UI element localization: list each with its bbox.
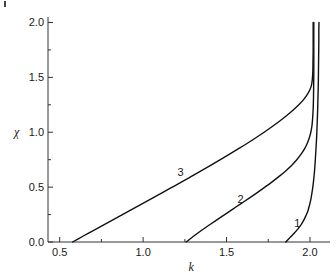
y-tick-label: 1.5 bbox=[16, 72, 44, 83]
curve-2 bbox=[186, 22, 314, 242]
curve-label-1: 1 bbox=[294, 218, 300, 229]
x-axis-title: k bbox=[189, 261, 194, 273]
y-tick-label: 0.5 bbox=[16, 182, 44, 193]
axis-lines bbox=[48, 17, 330, 242]
y-tick-label: 0.0 bbox=[16, 237, 44, 248]
data-curves bbox=[73, 22, 319, 242]
chart-figure: 0.00.51.01.52.0 0.51.01.52.0 123 χ k bbox=[0, 0, 336, 279]
x-tick-label: 2.0 bbox=[296, 247, 324, 258]
curve-label-3: 3 bbox=[177, 167, 183, 178]
x-tick-label: 1.0 bbox=[129, 247, 157, 258]
y-tick-label: 2.0 bbox=[16, 17, 44, 28]
y-axis-major-ticks bbox=[48, 22, 53, 242]
plot-canvas bbox=[0, 0, 336, 279]
x-tick-label: 0.5 bbox=[46, 247, 74, 258]
x-tick-label: 1.5 bbox=[213, 247, 241, 258]
curve-label-2: 2 bbox=[238, 194, 244, 205]
y-axis-title: χ bbox=[14, 126, 19, 138]
curve-3 bbox=[73, 22, 314, 242]
y-tick-label: 1.0 bbox=[16, 127, 44, 138]
